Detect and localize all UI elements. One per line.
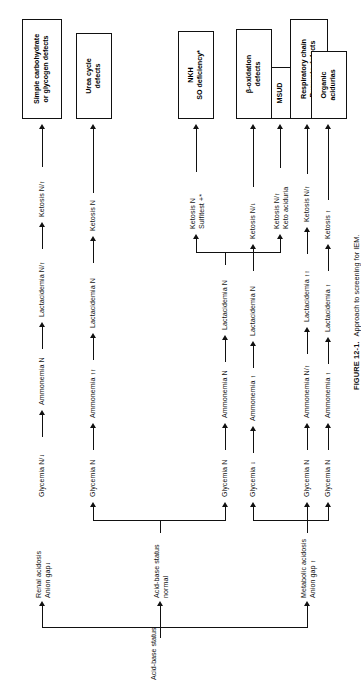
path-1-arrow-2 [39,322,45,327]
path-1-outcome-line2: or glycogen defects [42,34,51,104]
path-3a-ketosis: Ketosis N Sulfitest +* [189,194,206,229]
path-3b-arrow [277,124,283,129]
branch-label-metabolic: Metabolic acidosis Anion gap ↑ [300,539,317,598]
normal-split-arrow-down [222,502,228,507]
path-5-conn-3 [307,232,308,254]
root-label: Acid-base status [150,628,158,680]
metabolic-split-spine [253,520,328,521]
path-3-lactacidemia: Lactacidemia N [221,280,230,330]
branch-metabolic-line2: Anion gap ↑ [309,539,318,598]
path-1-lactacidemia: Lactacidemia N/↑ [38,261,47,317]
path-1-glycemia: Glycemia N/↓ [38,454,47,497]
path-4-conn-4 [253,129,254,187]
path-4-ketosis: Ketosis N/↓ [249,202,258,239]
path-2-arrow-1 [90,423,96,428]
path-2-conn-4 [93,129,94,193]
outcome-box-path-3a: NKH SO deficiency* [178,31,214,119]
path-1-conn-3 [42,227,43,249]
path-2-lactacidemia: Lactacidemia N [89,278,98,328]
branch-normal-line2: normal [162,544,171,598]
path-2-arrow-2 [90,333,96,338]
path-5-arrow-3 [304,227,310,232]
branch-metabolic-line1: Metabolic acidosis [300,539,309,598]
path-5-arrow-2 [304,327,310,332]
path-2-glycemia: Glycemia N [89,460,98,497]
path-4-glycemia: Glycemia ↓ [249,461,258,497]
path-3b-ketosis-line2: Keto aciduria [282,187,291,229]
path-6-conn-2 [328,342,329,364]
path-3-ammonemia: Ammonemia N [221,370,230,418]
path-6-arrow-4 [325,124,331,129]
path-4-arrow-1 [250,426,256,431]
metabolic-split-r4 [253,507,254,521]
path-2-ketosis: Ketosis N [89,200,98,231]
path-6-conn-3 [328,249,329,271]
metabolic-split-arrow-r4 [250,502,256,507]
path-1-ammonemia: Ammonemia N [38,357,47,405]
path-6-arrow-3 [325,244,331,249]
metabolic-split-r5 [307,507,308,521]
path-1-arrow-4 [39,124,45,129]
normal-split-spine [93,520,225,521]
path-2-arrow-3 [90,236,96,241]
branch-arrow-renal [39,601,45,606]
branch-connector-normal [160,606,161,628]
path-6-lactacidemia: Lactacidemia ↑ [324,284,333,332]
path-1-arrow-3 [39,222,45,227]
path-6-arrow-1 [325,423,331,428]
path-5-ketosis: Ketosis N/↑ [303,185,312,222]
path-5-conn-2 [307,332,308,354]
path-3-conn-2 [225,340,226,362]
path-3-split-arrow-up [193,234,199,239]
root-spine [42,627,307,628]
path-3a-ketosis-line1: Ketosis N [189,194,198,229]
path-4-outcome-line1: β-oxidation [245,55,254,93]
path-3-conn-1 [225,428,226,450]
path-3-split-down [280,239,281,253]
path-5-glycemia: Glycemia N [303,460,312,497]
branch-label-renal: Renal acidosis Anion gap↓ [35,551,52,598]
branch-connector-renal [42,606,43,628]
normal-split-down [225,507,226,521]
path-4-conn-2 [253,346,254,368]
path-3a-outcome-line1: NKH [187,50,196,100]
path-2-conn-1 [93,428,94,450]
path-3-arrow-2 [222,335,228,340]
path-2-conn-2 [93,338,94,360]
metabolic-split-arrow-r6 [325,502,331,507]
branch-arrow-normal [157,601,163,606]
path-3-split-arrow-down [277,234,283,239]
path-3b-ketosis-line1: Ketosis N/↑ [273,187,282,229]
path-6-glycemia: Glycemia N [324,460,333,497]
normal-split-up [93,507,94,521]
path-6-outcome-line1: Organic [320,69,329,100]
path-5-ammonemia: Ammonemia N/↑ [303,365,312,418]
path-6-ammonemia: Ammonemia ↑ [324,372,333,418]
outcome-box-path-2: Urea cycle defects [76,33,112,119]
outcome-box-path-1: Simple carbohydrate or glycogen defects [22,19,62,119]
path-2-arrow-4 [90,124,96,129]
path-5-arrow-1 [304,423,310,428]
path-1-conn-2 [42,327,43,349]
branch-renal-line1: Renal acidosis [35,551,44,598]
path-2-conn-3 [93,241,94,263]
path-3-split-spine [196,252,280,253]
path-1-outcome-line1: Simple carbohydrate [33,34,42,104]
figure-number: FIGURE 12-1. [352,341,361,390]
path-6-outcome-line2: acidurias [329,69,338,100]
normal-split-stem [160,521,161,533]
root-stem [160,628,161,638]
path-4-arrow-2 [250,341,256,346]
path-5-arrow-4 [304,124,310,129]
path-3-arrow-1 [222,423,228,428]
path-6-conn-4 [328,129,329,200]
path-1-conn-4 [42,129,43,167]
path-4-arrow-3 [250,244,256,249]
path-6-conn-1 [328,428,329,450]
path-3a-arrow [193,124,199,129]
path-3b-outcome-line1: MSUD [276,83,285,104]
path-4-lactacidemia: Lactacidemia N [249,286,258,336]
